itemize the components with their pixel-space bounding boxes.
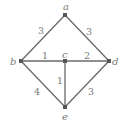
edge-d-e — [65, 61, 109, 107]
node-d — [107, 59, 111, 63]
edge-weight-c-d: 2 — [84, 50, 90, 61]
node-b — [19, 59, 23, 63]
edge-weight-a-b: 3 — [38, 25, 44, 36]
edge-weight-c-e: 1 — [57, 75, 63, 86]
edge-weight-a-d: 3 — [86, 26, 92, 37]
node-a — [63, 13, 67, 17]
weighted-graph: 3312143abcde — [0, 0, 125, 125]
edge-weight-d-e: 3 — [88, 86, 94, 97]
node-label-c: c — [62, 49, 68, 60]
node-label-a: a — [63, 1, 69, 12]
node-label-b: b — [10, 56, 16, 67]
node-e — [63, 105, 67, 109]
node-label-e: e — [62, 111, 68, 122]
edge-weight-b-e: 4 — [34, 86, 40, 97]
edge-weight-b-c: 1 — [42, 50, 48, 61]
node-label-d: d — [112, 56, 118, 67]
